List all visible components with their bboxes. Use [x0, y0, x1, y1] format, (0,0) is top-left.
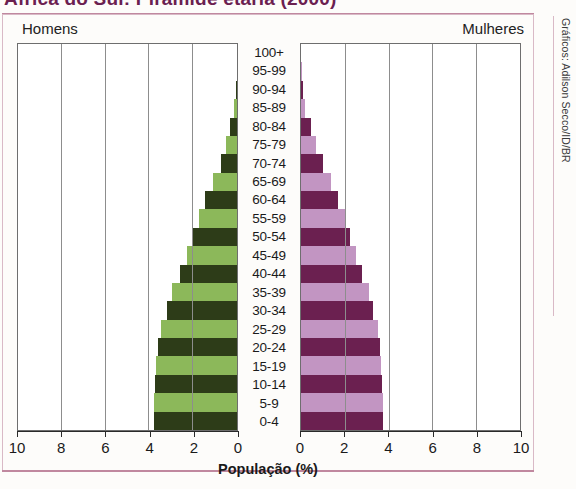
age-group-label: 50-54 [238, 228, 300, 246]
female-axis-line [300, 431, 521, 432]
legend-label-women: Mulheres [462, 20, 524, 37]
pyramid-bar [301, 338, 380, 356]
age-group-label: 85-89 [238, 98, 300, 116]
age-group-label: 95-99 [238, 61, 300, 79]
pyramid-bar [301, 320, 378, 338]
pyramid-bar [156, 356, 237, 374]
axis-tick [61, 431, 62, 437]
age-group-label: 100+ [238, 43, 300, 61]
pyramid-row [301, 393, 520, 411]
pyramid-bar [155, 375, 237, 393]
pyramid-bar [180, 265, 237, 283]
axis-tick-label: 8 [473, 439, 481, 456]
pyramid-row [301, 62, 520, 80]
legend-label-men: Homens [22, 20, 78, 37]
age-group-label: 30-34 [238, 302, 300, 320]
pyramid-bar [301, 173, 331, 191]
pyramid-row [301, 81, 520, 99]
pyramid-row [301, 375, 520, 393]
pyramid-row [301, 173, 520, 191]
pyramid-bar [301, 246, 356, 264]
male-axis-line [17, 431, 238, 432]
pyramid-bar [301, 154, 323, 172]
pyramid-row [18, 136, 237, 154]
page-title: África do Sul: Pirâmide etária (2000) [0, 0, 540, 12]
pyramid-bar [301, 393, 383, 411]
pyramid-bar [234, 99, 237, 117]
pyramid-row [301, 44, 520, 62]
gridline [432, 44, 433, 430]
pyramid-bar [301, 283, 369, 301]
axis-tick-label: 6 [101, 439, 109, 456]
age-group-label: 70-74 [238, 154, 300, 172]
pyramid-bar [221, 154, 237, 172]
pyramid-bar [301, 356, 381, 374]
pyramid-bar [301, 228, 350, 246]
pyramid-row [301, 191, 520, 209]
pyramid-bar [193, 228, 237, 246]
age-group-label: 40-44 [238, 265, 300, 283]
pyramid-bar [167, 301, 237, 319]
pyramid-bar [161, 320, 237, 338]
pyramid-row [301, 265, 520, 283]
axis-tick [194, 431, 195, 437]
pyramid-row [301, 228, 520, 246]
pyramid-bar [301, 62, 302, 80]
age-group-label: 65-69 [238, 172, 300, 190]
pyramid-bar [301, 136, 316, 154]
axis-tick [344, 431, 345, 437]
pyramid-bar [172, 283, 237, 301]
gridline [476, 44, 477, 430]
axis-tick-label: 2 [340, 439, 348, 456]
pyramid-bar [301, 412, 383, 430]
axis-tick-label: 10 [513, 439, 530, 456]
axis-tick-label: 0 [296, 439, 304, 456]
age-group-label: 25-29 [238, 320, 300, 338]
pyramid-row [18, 209, 237, 227]
pyramid-bar [226, 136, 237, 154]
pyramid-row [18, 393, 237, 411]
pyramid-row [18, 154, 237, 172]
axis-tick-label: 4 [145, 439, 153, 456]
gridline [345, 44, 346, 430]
credit-divider [553, 16, 554, 316]
pyramid-bar [205, 191, 237, 209]
axis-tick-label: 4 [384, 439, 392, 456]
axis-tick-label: 6 [428, 439, 436, 456]
pyramid-row [301, 118, 520, 136]
gridline [192, 44, 193, 430]
pyramid-bar [301, 81, 303, 99]
axis-title: População (%) [0, 461, 536, 477]
male-bar-rows [18, 44, 237, 430]
female-bar-rows [301, 44, 520, 430]
pyramid-row [18, 356, 237, 374]
credit-label: Gráficos: Adilson Secco/ID/BR [560, 18, 572, 163]
gridline [105, 44, 106, 430]
age-group-label: 45-49 [238, 246, 300, 264]
pyramid-row [18, 228, 237, 246]
pyramid-row [18, 246, 237, 264]
pyramid-row [301, 209, 520, 227]
age-group-label: 60-64 [238, 191, 300, 209]
axis-tick [521, 431, 522, 437]
pyramid-row [18, 99, 237, 117]
pyramid-row [18, 320, 237, 338]
pyramid-row [18, 375, 237, 393]
pyramid-row [18, 62, 237, 80]
pyramid-row [301, 99, 520, 117]
pyramid-row [18, 191, 237, 209]
gridline [61, 44, 62, 430]
age-group-label: 75-79 [238, 135, 300, 153]
pyramid-row [18, 301, 237, 319]
pyramid-row [18, 265, 237, 283]
age-group-label: 15-19 [238, 357, 300, 375]
pyramid-row [301, 136, 520, 154]
pyramid-row [301, 320, 520, 338]
pyramid-row [301, 338, 520, 356]
gridline [389, 44, 390, 430]
pyramid-bar [301, 191, 338, 209]
pyramid-row [301, 154, 520, 172]
pyramid-bar [301, 99, 305, 117]
pyramid-row [18, 338, 237, 356]
chart-title-strip: África do Sul: Pirâmide etária (2000) [0, 0, 540, 12]
